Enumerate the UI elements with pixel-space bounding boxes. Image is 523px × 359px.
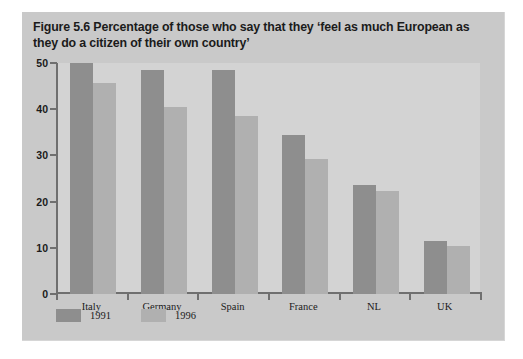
legend-label: 1991 (90, 310, 111, 321)
x-axis-tick (56, 294, 58, 300)
bar-italy-1996[interactable] (93, 83, 116, 294)
plot-area (56, 63, 480, 294)
bar-nl-1996[interactable] (376, 191, 399, 294)
figure-panel: Figure 5.6 Percentage of those who say t… (22, 12, 505, 341)
bar-germany-1996[interactable] (164, 107, 187, 294)
y-axis-tick-label: 40 (26, 103, 48, 115)
bar-nl-1991[interactable] (353, 185, 376, 294)
y-axis (56, 63, 58, 294)
bar-chart: 01020304050 ItalyGermanySpainFranceNLUK (22, 52, 505, 304)
y-axis-tick-label: 50 (26, 57, 48, 69)
bar-germany-1991[interactable] (141, 70, 164, 294)
x-axis-label-france: France (268, 301, 339, 312)
y-axis-tick-labels: 01020304050 (22, 52, 48, 304)
y-axis-tick (50, 201, 57, 203)
chart-legend: 19911996 (56, 309, 196, 322)
legend-swatch-icon (56, 309, 81, 322)
y-axis-tick-label: 30 (26, 149, 48, 161)
bar-uk-1996[interactable] (447, 246, 470, 294)
bar-france-1991[interactable] (282, 135, 305, 294)
legend-item-1996[interactable]: 1996 (141, 309, 196, 322)
bar-spain-1991[interactable] (212, 70, 235, 294)
y-axis-tick-label: 20 (26, 196, 48, 208)
bar-italy-1991[interactable] (70, 63, 93, 294)
y-axis-tick-label: 10 (26, 242, 48, 254)
y-axis-tick (50, 108, 57, 110)
bar-uk-1991[interactable] (424, 241, 447, 294)
legend-swatch-icon (141, 309, 166, 322)
bar-spain-1996[interactable] (235, 116, 258, 294)
y-axis-tick (50, 62, 57, 64)
y-axis-tick (50, 154, 57, 156)
x-axis-tick (127, 294, 129, 300)
x-axis-label-uk: UK (409, 301, 480, 312)
x-axis-tick (409, 294, 411, 300)
bar-france-1996[interactable] (305, 159, 328, 294)
x-axis-tick (268, 294, 270, 300)
legend-item-1991[interactable]: 1991 (56, 309, 111, 322)
x-axis-tick (197, 294, 199, 300)
x-axis-tick (339, 294, 341, 300)
legend-label: 1996 (175, 310, 196, 321)
y-axis-tick (50, 247, 57, 249)
x-axis-label-spain: Spain (197, 301, 268, 312)
y-axis-tick-label: 0 (26, 288, 48, 300)
x-axis-label-nl: NL (339, 301, 410, 312)
page-title: Figure 5.6 Percentage of those who say t… (33, 20, 473, 51)
x-axis-tick (480, 294, 482, 300)
